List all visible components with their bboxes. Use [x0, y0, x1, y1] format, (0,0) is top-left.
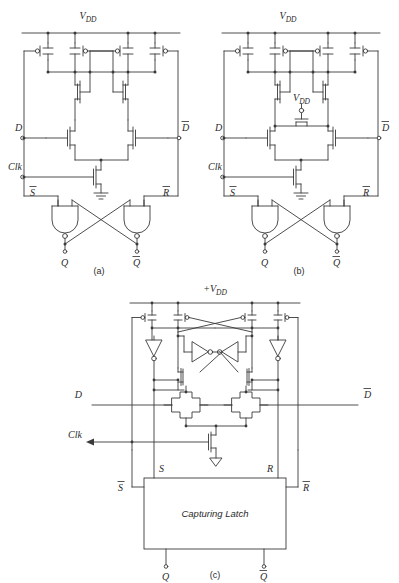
nmos-cross-right — [123, 72, 128, 120]
clk-label-a: Clk — [8, 161, 22, 172]
clk-label-b: Clk — [208, 161, 222, 172]
nmos-clock — [24, 166, 101, 193]
junction-dots-a — [23, 32, 157, 246]
rbar-label-a: R — [162, 187, 170, 199]
pmos-inner-left — [70, 43, 113, 72]
circuit-panel-c: +VDD D Clk D S R S R Capturing Latch Q Q — [0, 280, 399, 583]
panel-c-schematic: +VDD D Clk D S R S R Capturing Latch Q Q — [0, 280, 399, 583]
nmos-input-right — [328, 126, 368, 160]
nand-cross-wire-2 — [272, 200, 337, 244]
dbar-label-a: D — [181, 122, 190, 134]
nmos-cross-left — [75, 72, 80, 120]
caption-b: (b) — [294, 266, 305, 276]
r-label-c: R — [266, 463, 273, 474]
svg-text:R: R — [362, 187, 369, 198]
svg-text:D: D — [181, 122, 190, 133]
q-label-a: Q — [61, 257, 69, 268]
junction-dots-c — [131, 302, 280, 444]
rbar-label-b: R — [362, 187, 370, 199]
keeper-cross-2 — [200, 354, 220, 372]
svg-text:Q: Q — [133, 257, 141, 268]
vdd-label-b: VDD — [280, 10, 298, 24]
circuit-panel-a: VDD D Clk D S R Q Q (a) — [0, 0, 199, 278]
vdd-mid-label-b: VDD — [293, 92, 311, 106]
dbar-terminal-dot — [377, 136, 381, 140]
ground-symbol — [294, 193, 308, 199]
inverter-right-c — [270, 336, 286, 380]
nmos-input-left — [246, 126, 275, 160]
nand-cross-wire-2 — [72, 200, 137, 244]
qbar-label-a: Q — [133, 257, 142, 269]
pmos-outer-left — [24, 43, 53, 196]
circuit-panel-b: VDD VDD D Clk D S R Q Q (b) — [200, 0, 399, 278]
svg-text:R: R — [302, 482, 309, 493]
pmos-equalizer — [275, 104, 328, 126]
svg-text:Q: Q — [333, 257, 341, 268]
pmos-inner-left — [270, 43, 313, 72]
capturing-latch-label: Capturing Latch — [181, 508, 248, 519]
pmos-inner-left-c — [174, 311, 252, 332]
svg-text:S: S — [30, 187, 35, 198]
svg-text:R: R — [162, 187, 169, 198]
nmos-cross-right — [323, 72, 328, 126]
nmos-cross-left — [275, 72, 280, 126]
panel-a-schematic: VDD D Clk D S R Q Q (a) — [0, 0, 199, 278]
q-terminal-dot — [263, 250, 267, 254]
q-label-b: Q — [261, 257, 269, 268]
caption-c-wrap: (c) — [0, 566, 399, 583]
qbar-terminal-dot — [335, 250, 339, 254]
dbar-label-c: D — [363, 389, 372, 401]
dbar-terminal-dot — [177, 136, 181, 140]
keeper-inverter-right-c — [217, 342, 246, 362]
pmos-outer-left — [224, 43, 253, 196]
nmos-input-left — [46, 120, 75, 160]
vdd-label-c: +VDD — [203, 283, 227, 297]
sbar-label-c: S — [118, 482, 125, 494]
nand-cross-wire-1 — [65, 200, 130, 244]
pmos-outer-right — [150, 43, 178, 196]
pmos-inner-right — [90, 43, 133, 72]
clk-arrow-c — [86, 439, 94, 446]
qbar-label-b: Q — [333, 257, 342, 269]
pmos-outer-right — [350, 43, 378, 196]
vdd-label-a: VDD — [80, 10, 98, 24]
svg-text:D: D — [381, 122, 390, 133]
s-label-c: S — [159, 463, 164, 474]
nmos-input-right — [128, 120, 168, 160]
qbar-terminal-dot — [135, 250, 139, 254]
d-label-c: D — [74, 389, 83, 400]
d-label-b: D — [214, 122, 223, 133]
inverter-left-c — [146, 336, 162, 380]
q-terminal-dot — [63, 250, 67, 254]
ground-symbol-c — [210, 458, 222, 466]
clk-label-c: Clk — [68, 429, 82, 440]
ground-symbol — [94, 193, 108, 199]
svg-text:S: S — [118, 482, 123, 493]
caption-c: (c) — [210, 570, 221, 580]
pmos-inner-right-c — [178, 311, 256, 332]
caption-a: (a) — [94, 266, 105, 276]
nmos-clock — [224, 166, 301, 193]
dbar-label-b: D — [381, 122, 390, 134]
pmos-inner-right — [290, 43, 333, 72]
nand-cross-wire-1 — [265, 200, 330, 244]
rbar-label-c: R — [302, 482, 310, 494]
svg-text:S: S — [230, 187, 235, 198]
panel-b-schematic: VDD VDD D Clk D S R Q Q (b) — [200, 0, 399, 278]
keeper-cross-1 — [220, 352, 238, 372]
svg-text:D: D — [363, 389, 372, 400]
d-label-a: D — [14, 122, 23, 133]
junction-dots-b — [223, 32, 357, 246]
